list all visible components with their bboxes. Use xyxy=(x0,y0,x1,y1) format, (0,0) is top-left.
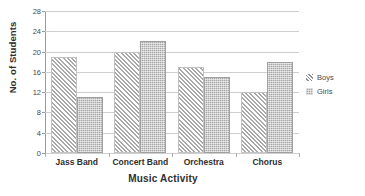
legend-item-boys[interactable]: Boys xyxy=(306,70,364,84)
bar-chart: No. of Students 0481216202428 Music Acti… xyxy=(0,0,365,196)
bar-girls-orchestra xyxy=(204,77,230,153)
bar-group xyxy=(51,11,103,153)
y-axis-tick-label: 8 xyxy=(7,108,41,117)
y-axis-tick-label: 24 xyxy=(7,27,41,36)
bar-boys-chorus xyxy=(241,92,267,153)
bar-group xyxy=(114,11,166,153)
x-axis-category-label: Chorus xyxy=(252,157,282,167)
x-axis-category-label: Concert Band xyxy=(112,157,168,167)
x-axis-category-label: Orchestra xyxy=(184,157,224,167)
x-axis-tick-mark xyxy=(109,153,110,157)
x-axis-tick-mark xyxy=(299,153,300,157)
bar-boys-jass-band xyxy=(51,57,77,153)
y-axis-tick-label: 0 xyxy=(7,149,41,158)
bar-girls-concert-band xyxy=(140,41,166,153)
y-axis-tick-labels: 0481216202428 xyxy=(0,0,41,196)
legend-swatch-girls-icon xyxy=(306,88,313,95)
y-axis-tick-label: 16 xyxy=(7,67,41,76)
legend-label: Boys xyxy=(317,73,334,82)
y-axis-tick-label: 20 xyxy=(7,47,41,56)
x-axis-category-label: Jass Band xyxy=(55,157,98,167)
y-axis-tick-label: 12 xyxy=(7,88,41,97)
chart-legend: BoysGirls xyxy=(306,70,364,98)
x-axis-tick-mark xyxy=(45,153,46,157)
x-axis-tick-mark xyxy=(172,153,173,157)
x-axis-title: Music Activity xyxy=(27,173,299,184)
plot-area xyxy=(45,11,299,153)
legend-item-girls[interactable]: Girls xyxy=(306,84,364,98)
bar-girls-chorus xyxy=(267,62,293,153)
y-axis-tick-label: 4 xyxy=(7,128,41,137)
y-axis-tick-label: 28 xyxy=(7,7,41,16)
bar-girls-jass-band xyxy=(77,97,103,153)
legend-swatch-boys-icon xyxy=(306,74,313,81)
bar-group xyxy=(241,11,293,153)
bar-group xyxy=(178,11,230,153)
x-axis-tick-mark xyxy=(236,153,237,157)
legend-label: Girls xyxy=(317,87,332,96)
bar-boys-orchestra xyxy=(178,67,204,153)
bar-boys-concert-band xyxy=(114,52,140,153)
